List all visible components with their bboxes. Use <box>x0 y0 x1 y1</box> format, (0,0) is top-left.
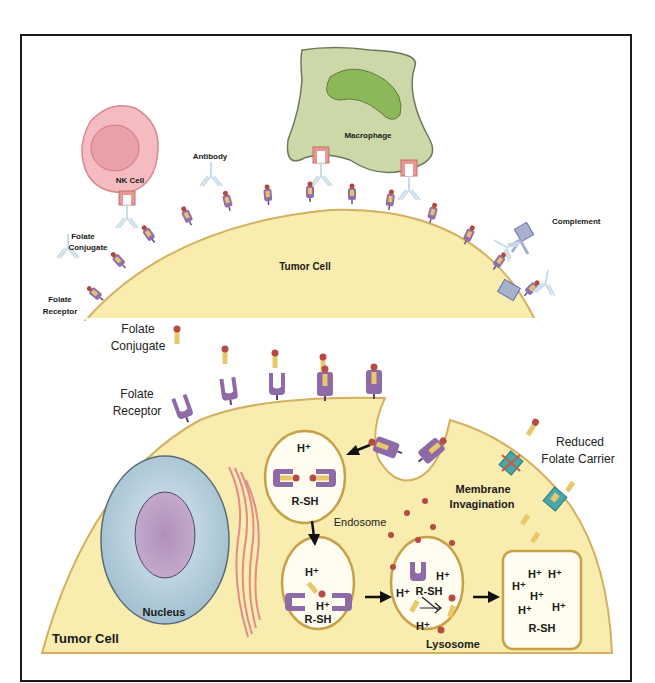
endosome1-rsh: R-SH <box>292 495 319 507</box>
endosome-1: H⁺ R-SH <box>265 431 345 523</box>
label-folate-conjugate-1: Folate <box>71 232 95 241</box>
label-reduced-folate-carrier-2: Folate Carrier <box>541 452 614 466</box>
label-folate-receptor-2: Receptor <box>43 307 78 316</box>
endosome2-hplus-2: H⁺ <box>316 600 330 612</box>
endosome3-rsh: R-SH <box>416 585 443 597</box>
nk-cell <box>82 106 158 228</box>
top-panel: NK Cell Macrophage Antibody Complement F… <box>43 48 601 323</box>
label-folate-conjugate-bottom-1: Folate <box>121 322 155 336</box>
reduced-folate-carrier-1 <box>499 451 523 475</box>
lysosome-hplus-3: H⁺ <box>512 580 526 592</box>
label-endosome: Endosome <box>334 516 387 528</box>
bottom-panel: H⁺ R-SH H⁺ H⁺ R-SH H⁺ H⁺ H⁺ R <box>42 322 615 653</box>
endosome2-rsh: R-SH <box>305 613 332 625</box>
endosome3-hplus-3: H⁺ <box>416 620 430 632</box>
nucleus <box>101 456 229 624</box>
label-folate-conjugate-bottom-2: Conjugate <box>111 339 166 353</box>
label-tumor-cell-top: Tumor Cell <box>279 261 331 272</box>
endosome3-hplus-1: H⁺ <box>396 587 410 599</box>
lysosome-rsh: R-SH <box>529 622 556 634</box>
label-nk-cell: NK Cell <box>116 176 144 185</box>
label-lysosome: Lysosome <box>426 638 480 650</box>
lysosome-hplus-5: H⁺ <box>552 601 566 613</box>
label-folate-conjugate-2: Conjugate <box>68 243 108 252</box>
lysosome-hplus-6: H⁺ <box>518 604 532 616</box>
macrophage <box>288 48 433 201</box>
endosome3-hplus-2: H⁺ <box>436 570 450 582</box>
lysosome-hplus-4: H⁺ <box>530 590 544 602</box>
endosome-2: H⁺ H⁺ R-SH <box>282 537 354 629</box>
endosome1-hplus: H⁺ <box>297 442 311 454</box>
label-folate-receptor-bottom-2: Receptor <box>113 404 162 418</box>
label-antibody: Antibody <box>193 152 228 161</box>
lysosome-box: H⁺ H⁺ H⁺ H⁺ H⁺ H⁺ R-SH <box>503 551 581 649</box>
label-folate-receptor-1: Folate <box>48 295 72 304</box>
label-membrane-invagination-2: Invagination <box>450 498 515 510</box>
label-tumor-cell-bottom: Tumor Cell <box>52 631 119 646</box>
endosome2-hplus-1: H⁺ <box>305 566 319 578</box>
label-folate-receptor-bottom-1: Folate <box>120 387 154 401</box>
label-membrane-invagination-1: Membrane <box>455 483 510 495</box>
label-nucleus: Nucleus <box>143 606 186 618</box>
folate-targeting-diagram: NK Cell Macrophage Antibody Complement F… <box>0 0 655 683</box>
label-complement: Complement <box>552 217 601 226</box>
lysosome-hplus-1: H⁺ <box>528 568 542 580</box>
label-macrophage: Macrophage <box>344 131 392 140</box>
label-reduced-folate-carrier-1: Reduced <box>556 435 604 449</box>
lysosome-hplus-2: H⁺ <box>548 568 562 580</box>
